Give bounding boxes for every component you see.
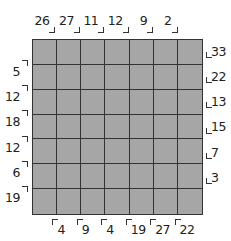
grid-cell[interactable] [105, 40, 129, 65]
grid-cell[interactable] [81, 90, 105, 115]
grid-cell[interactable] [105, 164, 129, 189]
grid-cell[interactable] [130, 65, 154, 90]
clue-right: 3 [211, 172, 218, 185]
clue-bottom: 4 [57, 224, 64, 237]
grid-cell[interactable] [105, 65, 129, 90]
grid-cell[interactable] [81, 139, 105, 164]
clue-right: 13 [211, 96, 226, 109]
grid-cell[interactable] [81, 40, 105, 65]
grid-cell[interactable] [178, 40, 202, 65]
grid-cell[interactable] [57, 65, 81, 90]
clue-marker-icon [123, 27, 129, 33]
clue-top: 27 [59, 15, 74, 28]
clue-marker-icon [98, 27, 104, 33]
grid-cell[interactable] [154, 139, 178, 164]
clue-top: 9 [140, 15, 147, 28]
grid-cell[interactable] [105, 90, 129, 115]
grid-cell[interactable] [178, 139, 202, 164]
clue-marker-icon [22, 110, 28, 116]
grid-cell[interactable] [105, 189, 129, 214]
clue-bottom: 9 [82, 224, 89, 237]
grid-cell[interactable] [130, 40, 154, 65]
clue-bottom: 4 [106, 224, 113, 237]
grid-cell[interactable] [33, 90, 57, 115]
clue-marker-icon [22, 136, 28, 142]
grid-cell[interactable] [130, 189, 154, 214]
clue-top: 26 [35, 15, 50, 28]
clue-left: 12 [5, 91, 20, 104]
grid-cell[interactable] [178, 189, 202, 214]
clue-marker-icon [22, 186, 28, 192]
clue-marker-icon [147, 27, 153, 33]
clue-top: 11 [83, 15, 98, 28]
clue-marker-icon [172, 27, 178, 33]
grid-cell[interactable] [33, 65, 57, 90]
clue-top: 2 [164, 15, 171, 28]
clue-left: 19 [5, 192, 20, 205]
grid-cell[interactable] [81, 164, 105, 189]
grid-cell[interactable] [33, 164, 57, 189]
grid-cell[interactable] [33, 139, 57, 164]
grid-cell[interactable] [57, 139, 81, 164]
clue-marker-icon [49, 27, 55, 33]
clue-marker-icon [22, 85, 28, 91]
grid-cell[interactable] [33, 40, 57, 65]
grid-cell[interactable] [154, 189, 178, 214]
clue-right: 7 [211, 147, 218, 160]
clue-left: 6 [13, 167, 20, 180]
grid-cell[interactable] [154, 90, 178, 115]
clue-left: 5 [13, 66, 20, 79]
grid-cell[interactable] [57, 164, 81, 189]
grid-cell[interactable] [81, 115, 105, 140]
grid-cell[interactable] [130, 139, 154, 164]
clue-bottom: 27 [155, 224, 170, 237]
grid-cell[interactable] [178, 164, 202, 189]
grid-cell[interactable] [130, 90, 154, 115]
clue-left: 12 [5, 142, 20, 155]
grid-cell[interactable] [130, 164, 154, 189]
clue-bottom: 22 [180, 224, 195, 237]
grid-cell[interactable] [154, 115, 178, 140]
grid-cell[interactable] [154, 164, 178, 189]
clue-top: 12 [108, 15, 123, 28]
grid-cell[interactable] [57, 115, 81, 140]
grid-cell[interactable] [57, 189, 81, 214]
clue-right: 22 [211, 71, 226, 84]
grid-cell[interactable] [57, 90, 81, 115]
grid-cell[interactable] [178, 115, 202, 140]
clue-marker-icon [74, 27, 80, 33]
clue-bottom: 19 [131, 224, 146, 237]
grid-cell[interactable] [154, 40, 178, 65]
grid-cell[interactable] [33, 115, 57, 140]
grid-cell[interactable] [154, 65, 178, 90]
clue-right: 15 [211, 121, 226, 134]
clue-marker-icon [22, 60, 28, 66]
grid-cell[interactable] [105, 115, 129, 140]
grid-cell[interactable] [57, 40, 81, 65]
clue-marker-icon [22, 161, 28, 167]
grid-cell[interactable] [130, 115, 154, 140]
grid-cell[interactable] [178, 90, 202, 115]
clue-left: 18 [5, 116, 20, 129]
grid-cell[interactable] [81, 65, 105, 90]
clue-right: 33 [211, 46, 226, 59]
grid-cell[interactable] [81, 189, 105, 214]
puzzle-grid[interactable] [32, 39, 203, 215]
grid-cell[interactable] [33, 189, 57, 214]
grid-cell[interactable] [105, 139, 129, 164]
grid-cell[interactable] [178, 65, 202, 90]
